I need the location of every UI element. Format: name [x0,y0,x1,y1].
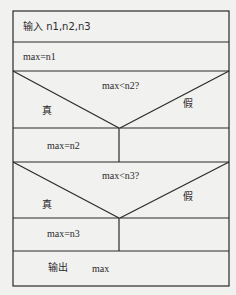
decision-1-condition: max<n2? [102,80,139,92]
decision-1-true-branch: max=n2 [47,140,80,152]
input-step: 输入 n1,n2,n3 [23,21,91,33]
decision-2-false-label: 假 [183,191,193,203]
ns-flowchart [0,0,236,295]
decision-2-condition: max<n3? [102,170,139,182]
decision-2-true-branch: max=n3 [47,228,80,240]
assign-max-n1: max=n1 [23,51,56,63]
decision-2-true-label: 真 [42,199,52,211]
output-value: max [92,263,109,275]
output-keyword: 输出 [48,262,68,274]
decision-1-false-label: 假 [183,98,193,110]
decision-1-true-label: 真 [42,105,52,117]
